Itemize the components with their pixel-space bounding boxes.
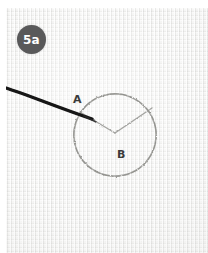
figure-number-label: 5a — [23, 34, 40, 46]
angle-arm-right — [115, 108, 152, 133]
drawn-circle-overstroke — [74, 94, 157, 177]
point-label-b: B — [117, 149, 125, 160]
drawn-circle — [74, 94, 156, 176]
point-label-a: A — [73, 94, 82, 105]
figure-panel: 5a A B — [0, 0, 208, 253]
figure-number-badge: 5a — [17, 25, 46, 54]
photograph-plate: 5a A B — [6, 8, 208, 253]
drawn-circle-group — [74, 94, 157, 177]
probe-pointer-group — [6, 88, 96, 122]
angle-arms-group — [80, 108, 152, 133]
